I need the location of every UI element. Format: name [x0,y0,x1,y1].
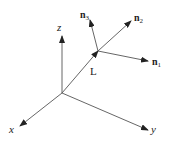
n3-label: n3 [80,10,89,22]
x-axis [20,93,62,126]
diagram-canvas [0,0,172,147]
z-axis-label: z [57,22,61,33]
n1-arrow [98,51,148,61]
n3-arrow [90,20,98,51]
y-axis [62,93,148,130]
x-axis-label: x [9,124,14,135]
n2-arrow [98,21,131,51]
n2-label: n2 [134,13,143,25]
n1-label: n1 [152,57,161,69]
vector-L-label: L [90,66,97,77]
y-axis-label: y [151,124,156,135]
